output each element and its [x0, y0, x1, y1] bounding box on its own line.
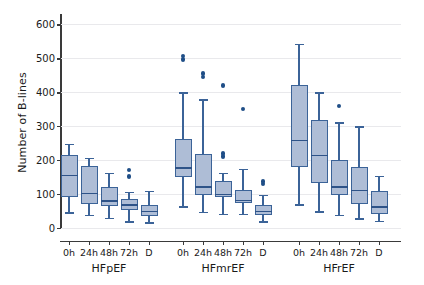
whisker-cap-lower	[295, 204, 304, 205]
whisker-cap-lower	[355, 218, 364, 219]
outlier-point	[127, 174, 132, 179]
x-tick-label-72h: 72h	[120, 247, 138, 258]
box-iqr	[175, 139, 192, 177]
median-line	[371, 206, 388, 208]
whisker-cap-upper	[375, 176, 384, 177]
x-tick-mark	[339, 241, 340, 245]
y-tick-mark	[57, 228, 61, 229]
median-line	[291, 140, 308, 142]
y-tick-mark	[57, 92, 61, 93]
group-label-HFmrEF: HFmrEF	[201, 262, 244, 275]
plot-area: 0100200300400500600	[61, 14, 401, 228]
x-tick-label-D: D	[259, 247, 266, 258]
median-line	[351, 190, 368, 192]
y-tick-label: 100	[36, 189, 55, 200]
whisker-cap-upper	[239, 169, 248, 170]
x-tick-label-48h: 48h	[100, 247, 118, 258]
y-tick-label: 500	[36, 53, 55, 64]
whisker-cap-upper	[259, 195, 268, 196]
outlier-point	[241, 107, 246, 112]
whisker-cap-upper	[355, 126, 364, 127]
x-axis-line	[60, 241, 401, 242]
box-iqr	[331, 160, 348, 195]
whisker-cap-lower	[219, 214, 228, 215]
x-tick-label-48h: 48h	[214, 247, 232, 258]
gridline	[61, 92, 401, 93]
gridline	[61, 58, 401, 59]
whisker-cap-upper	[315, 92, 324, 93]
whisker-cap-upper	[125, 192, 134, 193]
gridline	[61, 24, 401, 25]
x-tick-label-0h: 0h	[293, 247, 305, 258]
whisker-cap-upper	[105, 173, 114, 174]
outlier-point	[337, 104, 342, 109]
whisker-cap-lower	[105, 218, 114, 219]
y-tick-label: 300	[36, 121, 55, 132]
outlier-point	[221, 83, 226, 88]
y-tick-mark	[57, 126, 61, 127]
median-line	[121, 204, 138, 206]
y-tick-mark	[57, 58, 61, 59]
x-tick-mark	[89, 241, 90, 245]
x-tick-label-24h: 24h	[194, 247, 212, 258]
whisker-cap-lower	[375, 221, 384, 222]
y-tick-label: 200	[36, 155, 55, 166]
whisker-cap-lower	[239, 214, 248, 215]
whisker-cap-lower	[179, 206, 188, 207]
median-line	[255, 211, 272, 213]
x-tick-mark	[129, 241, 130, 245]
x-tick-label-24h: 24h	[80, 247, 98, 258]
box-iqr	[195, 154, 212, 195]
x-tick-mark	[359, 241, 360, 245]
outlier-point	[201, 71, 206, 76]
box-iqr	[81, 166, 98, 204]
median-line	[175, 167, 192, 169]
x-tick-mark	[203, 241, 204, 245]
x-tick-mark	[299, 241, 300, 245]
x-tick-mark	[69, 241, 70, 245]
x-tick-mark	[183, 241, 184, 245]
median-line	[61, 175, 78, 177]
x-tick-mark	[149, 241, 150, 245]
x-tick-label-D: D	[145, 247, 152, 258]
x-tick-mark	[319, 241, 320, 245]
median-line	[195, 186, 212, 188]
box-iqr	[101, 187, 118, 206]
whisker-cap-upper	[85, 158, 94, 159]
whisker-cap-lower	[145, 222, 154, 223]
x-tick-mark	[379, 241, 380, 245]
x-tick-label-72h: 72h	[350, 247, 368, 258]
gridline	[61, 160, 401, 161]
x-tick-mark	[263, 241, 264, 245]
median-line	[215, 194, 232, 196]
box-iqr	[371, 191, 388, 214]
outlier-point	[261, 179, 266, 184]
x-tick-label-D: D	[375, 247, 382, 258]
outlier-point	[127, 168, 132, 173]
whisker-cap-upper	[295, 44, 304, 45]
median-line	[235, 200, 252, 202]
whisker-cap-upper	[179, 92, 188, 93]
y-tick-label: 600	[36, 19, 55, 30]
median-line	[331, 186, 348, 188]
group-label-HFpEF: HFpEF	[92, 262, 127, 275]
gridline	[61, 228, 401, 229]
group-label-HFrEF: HFrEF	[323, 262, 355, 275]
x-tick-label-0h: 0h	[63, 247, 75, 258]
box-iqr	[291, 85, 308, 167]
box-iqr	[311, 120, 328, 184]
x-tick-mark	[109, 241, 110, 245]
x-tick-mark	[223, 241, 224, 245]
box-iqr	[351, 167, 368, 204]
whisker-cap-lower	[199, 212, 208, 213]
y-tick-mark	[57, 24, 61, 25]
outlier-point	[221, 151, 226, 156]
x-tick-label-0h: 0h	[177, 247, 189, 258]
whisker-cap-lower	[315, 211, 324, 212]
median-line	[141, 211, 158, 213]
y-tick-label: 0	[49, 223, 55, 234]
median-line	[81, 193, 98, 195]
whisker-cap-lower	[65, 212, 74, 213]
median-line	[311, 155, 328, 157]
x-tick-label-72h: 72h	[234, 247, 252, 258]
